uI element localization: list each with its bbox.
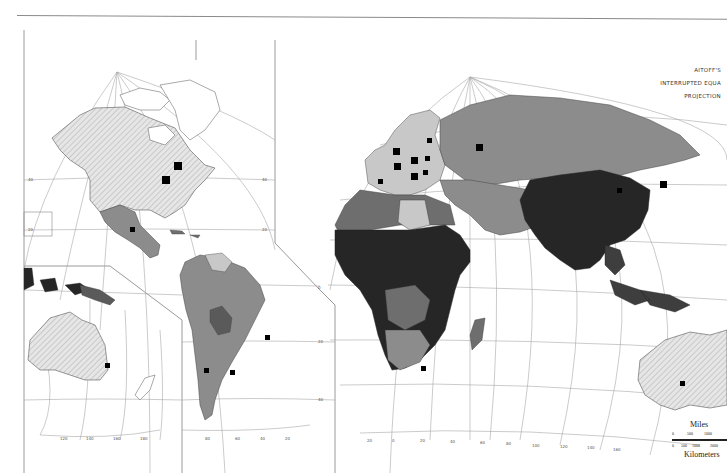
marker-uk [393,148,400,155]
svg-text:0: 0 [392,438,395,443]
svg-text:180: 180 [140,436,148,441]
svg-text:20: 20 [318,339,324,344]
marker-poland [425,156,430,161]
svg-text:60: 60 [235,436,241,441]
svg-text:100: 100 [532,443,540,448]
marker-usa [162,176,170,184]
svg-text:20: 20 [285,436,291,441]
inset-box [24,212,52,236]
marker-china [617,188,622,193]
svg-text:20: 20 [28,227,34,232]
papua-left [80,285,115,305]
projection-title: AITOFF'S INTERRUPTED EQUA PROJECTION [660,64,721,103]
marker-argentina [230,370,235,375]
marker-canada [174,162,182,170]
world-map: 40 40 20 20 0 20 40 120 140 160 180 80 6… [0,0,727,473]
caribbean [170,230,200,238]
south-america [180,255,265,420]
svg-text:0: 0 [318,285,321,290]
svg-text:160: 160 [613,447,621,452]
marker-spain [378,179,383,184]
marker-russia [476,144,483,151]
marker-south-africa [421,366,426,371]
scale-bar-line [672,439,727,441]
southeast-asia [605,245,690,312]
marker-sweden [427,138,432,143]
svg-text:120: 120 [560,444,568,449]
europe [365,110,445,195]
svg-text:140: 140 [587,445,595,450]
scale-km-label: Kilometers [684,450,720,459]
svg-text:40: 40 [260,436,266,441]
svg-text:80: 80 [506,441,512,446]
svg-text:40: 40 [262,177,268,182]
marker-mexico [130,227,135,232]
marker-chile [204,368,209,373]
projection-title-line-3: PROJECTION [660,90,721,103]
svg-text:120: 120 [60,436,68,441]
svg-text:60: 60 [480,440,486,445]
svg-text:20: 20 [262,227,268,232]
scale-bar: Miles 0 500 1000 0 500 1000 2000 Kilomet… [672,420,727,470]
projection-title-line-1: AITOFF'S [660,64,721,77]
svg-text:80: 80 [205,436,211,441]
marker-france [394,163,401,170]
marker-brazil [265,335,270,340]
marker-italy [411,173,418,180]
svg-text:140: 140 [86,436,94,441]
madagascar [470,318,485,350]
svg-text:20: 20 [367,438,373,443]
svg-text:40: 40 [318,397,324,402]
australia-left [28,312,108,380]
svg-text:20: 20 [420,438,426,443]
russia [440,95,700,185]
marker-central-europe [423,170,428,175]
marker-japan [660,181,667,188]
marker-australia-left [105,363,110,368]
china-south-asia [520,170,650,270]
marker-germany [411,157,418,164]
projection-title-line-2: INTERRUPTED EQUA [660,77,721,90]
new-zealand-left [135,375,155,400]
australia-right [638,330,727,410]
marker-australia-right [680,381,685,386]
scale-miles-label: Miles [690,420,708,429]
libya [398,200,430,230]
svg-text:160: 160 [113,436,121,441]
svg-text:40: 40 [450,439,456,444]
svg-text:40: 40 [28,177,34,182]
